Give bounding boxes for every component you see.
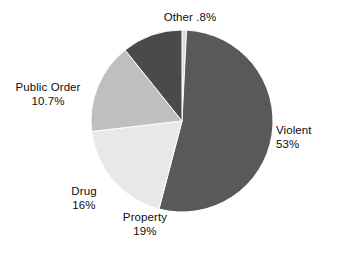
pie-label-public-order-name: Public Order: [4, 80, 92, 94]
pie-slice-group: [91, 30, 273, 212]
pie-chart-figure: Other .8% Violent 53% Public Order 10.7%…: [0, 0, 339, 255]
pie-label-other-value: .8%: [196, 11, 216, 23]
pie-label-violent-value: 53%: [276, 137, 334, 151]
pie-label-public-order-value: 10.7%: [4, 94, 92, 108]
pie-label-violent-name: Violent: [276, 123, 334, 137]
pie-label-property-name: Property: [109, 210, 181, 224]
pie-label-drug-value: 16%: [58, 198, 110, 212]
pie-label-public-order: Public Order 10.7%: [4, 80, 92, 108]
pie-label-drug-name: Drug: [58, 184, 110, 198]
pie-label-violent: Violent 53%: [276, 123, 334, 151]
pie-label-other-name: Other: [164, 11, 193, 23]
pie-label-property: Property 19%: [109, 210, 181, 238]
pie-label-other: Other .8%: [142, 10, 238, 24]
pie-label-drug: Drug 16%: [58, 184, 110, 212]
pie-label-property-value: 19%: [109, 224, 181, 238]
